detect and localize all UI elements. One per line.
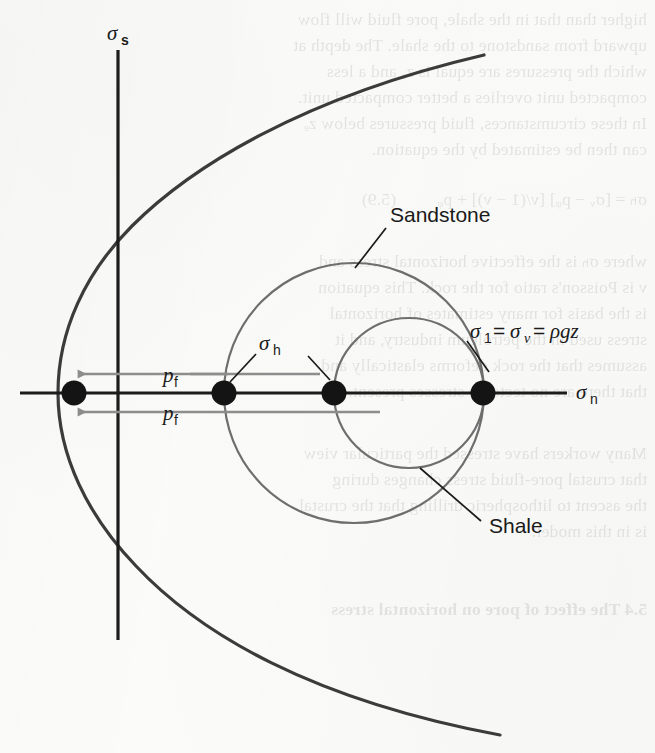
- sigma-1-rhs-rho-g-z: ρgz: [549, 319, 579, 343]
- sandstone-label: Sandstone: [390, 203, 490, 226]
- pf-lower-symbol: p: [161, 401, 174, 425]
- shear-axis-label: σ s: [107, 21, 129, 48]
- sigma-n-symbol: σ: [576, 380, 588, 404]
- shale-sigma-min-dot: [322, 381, 347, 406]
- mohr-circle-diagram: σ s σ n Sandstone Shale σ h σ 1 = σ v = …: [0, 0, 655, 753]
- sigma-n-subscript: n: [590, 391, 598, 407]
- sigma-1-subscript: 1: [484, 330, 492, 346]
- sigma-s-symbol: σ: [107, 21, 119, 45]
- sigma-1-symbol: σ: [470, 319, 482, 343]
- effective-stress-point-dot: [62, 381, 87, 406]
- sandstone-leader-line: [355, 228, 386, 268]
- sigma-1-dot: [471, 381, 496, 406]
- normal-axis-label: σ n: [576, 380, 598, 407]
- sigma-1-equals-2: =: [533, 319, 545, 342]
- pf-lower-label: p f: [161, 401, 178, 428]
- pf-upper-subscript: f: [174, 374, 178, 390]
- sigma-1-equals-1: =: [493, 319, 505, 342]
- shale-leader-line: [420, 468, 481, 521]
- pf-upper-label: p f: [161, 363, 178, 390]
- sigma-h-subscript: h: [273, 342, 281, 358]
- sigma-h-pointer: [230, 354, 256, 382]
- sigma-h-symbol: σ: [259, 331, 271, 355]
- failure-envelope-lower: [58, 393, 500, 735]
- scanned-figure-page: higher than that in the shale, pore flui…: [0, 0, 655, 753]
- pf-lower-subscript: f: [174, 412, 178, 428]
- shale-label: Shale: [489, 514, 543, 537]
- shale-sigma-pointer: [308, 356, 330, 380]
- sigma-s-subscript: s: [121, 32, 129, 48]
- sigma-h-dot: [212, 381, 237, 406]
- sigma-1-equation-label: σ 1 = σ v = ρgz: [470, 319, 579, 346]
- sigma-v-subscript: v: [524, 331, 531, 346]
- pf-upper-symbol: p: [161, 363, 174, 387]
- sigma-v-symbol: σ: [510, 319, 522, 343]
- sigma-h-label: σ h: [259, 331, 281, 358]
